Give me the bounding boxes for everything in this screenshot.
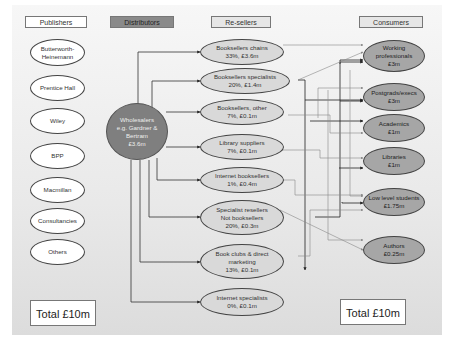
- publisher-macmillan: Macmillan: [30, 177, 85, 203]
- publisher-wiley: Wiley: [30, 108, 85, 134]
- reseller-booksellers-specialists: Booksellers specialists 20%, £1.4m: [200, 68, 290, 94]
- consumer-libraries: Libraries £1m: [363, 147, 425, 175]
- consumer-low-level-students: Low level students £1.75m: [363, 188, 425, 216]
- header-distributors: Distributors: [110, 16, 174, 28]
- reseller-internet-booksellers: Internet booksellers 1%, £0.4m: [200, 167, 284, 193]
- header-resellers: Re-sellers: [211, 16, 271, 28]
- distributor-wholesalers: Wholesalers e.g. Gardner & Bertram £3.6m: [106, 103, 168, 160]
- consumer-working-professionals: Working professionals £3m: [363, 40, 425, 72]
- header-consumers: Consumers: [359, 16, 423, 28]
- consumer-authors: Authors £0.25m: [363, 236, 425, 264]
- reseller-library-suppliers: Library suppliers 7%, £0.1m: [200, 134, 284, 160]
- reseller-booksellers-chains: Booksellers chains 33%, £3.6m: [200, 39, 284, 65]
- total-right: Total £10m: [340, 299, 406, 325]
- consumer-academics: Academics £1m: [363, 114, 425, 142]
- reseller-booksellers-other: Booksellers, other 7%, £0.1m: [200, 99, 284, 125]
- reseller-internet-specialists: Internet specialists 0%, £0.1m: [200, 288, 284, 316]
- publisher-bpp: BPP: [30, 143, 85, 169]
- publisher-butterworth-heinemann: Butterworth- Heinemann: [30, 39, 85, 66]
- publisher-consultancies: Consultancies: [30, 208, 85, 234]
- consumer-postgrads-execs: Postgrads/execs £3m: [363, 83, 425, 111]
- total-left: Total £10m: [30, 300, 96, 326]
- publisher-others: Others: [30, 239, 85, 265]
- reseller-specialist-resellers: Specialist resellers Not booksellers 20%…: [200, 200, 284, 235]
- publisher-prentice-hall: Prentice Hall: [30, 75, 85, 101]
- header-publishers: Publishers: [25, 16, 87, 28]
- reseller-book-clubs: Book clubs & direct marketing 13%, £0.1m: [200, 244, 284, 279]
